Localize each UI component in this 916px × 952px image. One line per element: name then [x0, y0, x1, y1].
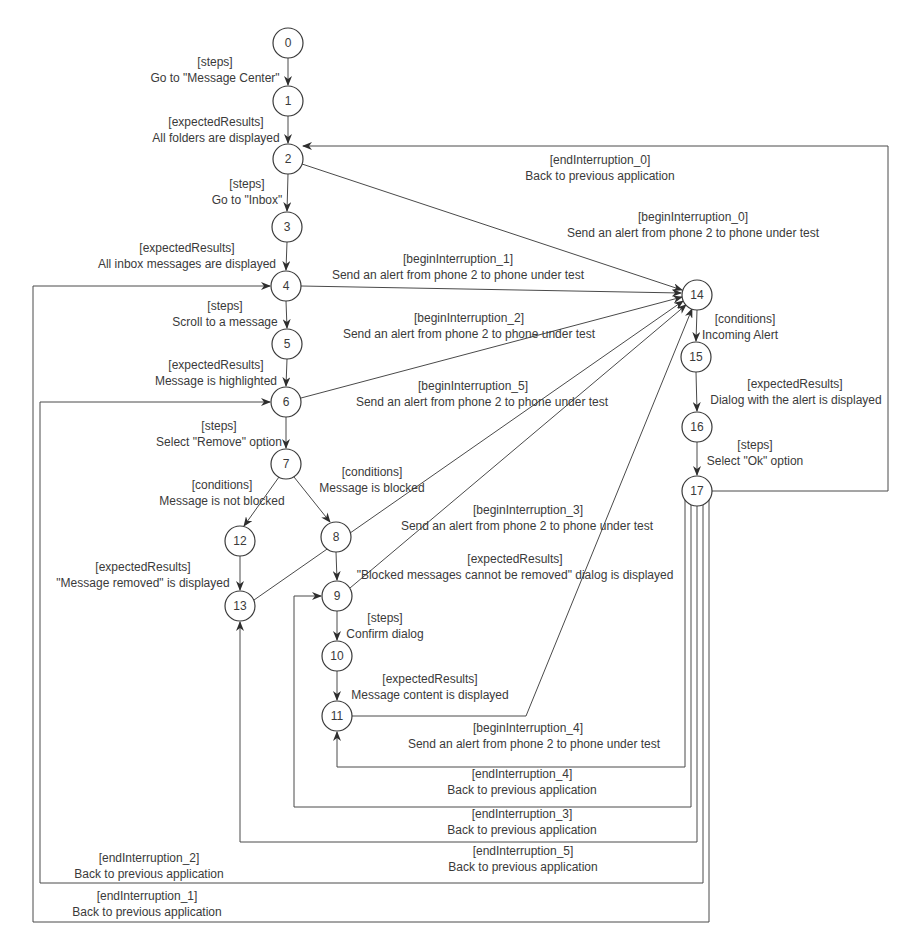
svg-text:Incoming Alert: Incoming Alert — [702, 328, 779, 342]
svg-text:10: 10 — [330, 649, 344, 663]
label-end-interruption-5: [endInterruption_5] Back to previous app… — [448, 844, 597, 874]
svg-text:[endInterruption_2]: [endInterruption_2] — [99, 851, 200, 865]
state-node-11[interactable]: 11 — [322, 701, 352, 731]
svg-text:11: 11 — [331, 709, 344, 723]
state-node-13[interactable]: 13 — [225, 591, 255, 621]
svg-text:Back to previous application: Back to previous application — [525, 169, 674, 183]
label-begin-interruption-1: [beginInterruption_1] Send an alert from… — [332, 252, 585, 282]
svg-text:17: 17 — [690, 484, 704, 498]
edge-4-5 — [286, 301, 287, 328]
state-transition-diagram: 0 1 2 3 4 5 6 7 8 9 10 11 12 13 14 15 16… — [0, 0, 916, 952]
label-edge-12-13: [expectedResults] "Message removed" is d… — [56, 560, 229, 590]
svg-text:Send an alert from phone 2 to: Send an alert from phone 2 to phone unde… — [408, 737, 661, 751]
label-begin-interruption-4: [beginInterruption_4] Send an alert from… — [408, 721, 661, 751]
svg-text:15: 15 — [689, 350, 703, 364]
edge-8-9 — [336, 552, 337, 580]
svg-text:Go to "Message Center": Go to "Message Center" — [150, 71, 279, 85]
svg-text:[beginInterruption_1]: [beginInterruption_1] — [403, 252, 513, 266]
edge-3-4 — [286, 242, 287, 270]
svg-text:[conditions]: [conditions] — [715, 312, 776, 326]
svg-text:16: 16 — [690, 420, 704, 434]
svg-text:All folders are displayed: All folders are displayed — [152, 131, 279, 145]
svg-text:Back to previous application: Back to previous application — [74, 867, 223, 881]
svg-text:[beginInterruption_4]: [beginInterruption_4] — [473, 721, 583, 735]
state-node-4[interactable]: 4 — [271, 271, 301, 301]
svg-text:2: 2 — [285, 152, 292, 166]
label-end-interruption-4: [endInterruption_4] Back to previous app… — [447, 767, 596, 797]
state-node-10[interactable]: 10 — [322, 641, 352, 671]
svg-text:[endInterruption_1]: [endInterruption_1] — [97, 889, 198, 903]
edge-5-6 — [286, 359, 287, 386]
edge-17-4 — [33, 286, 709, 922]
label-end-interruption-2: [endInterruption_2] Back to previous app… — [74, 851, 223, 881]
state-node-8[interactable]: 8 — [321, 522, 351, 552]
svg-text:7: 7 — [283, 457, 290, 471]
svg-text:[beginInterruption_3]: [beginInterruption_3] — [473, 503, 583, 517]
state-node-14[interactable]: 14 — [682, 280, 712, 310]
svg-text:Message is blocked: Message is blocked — [319, 481, 424, 495]
svg-text:Back to previous application: Back to previous application — [72, 905, 221, 919]
svg-text:Message is not blocked: Message is not blocked — [159, 494, 284, 508]
state-node-17[interactable]: 17 — [682, 476, 712, 506]
svg-text:1: 1 — [285, 94, 292, 108]
state-node-16[interactable]: 16 — [682, 412, 712, 442]
svg-text:[steps]: [steps] — [207, 299, 242, 313]
label-begin-interruption-5: [beginInterruption_5] Send an alert from… — [356, 379, 609, 409]
edge-17-9 — [294, 505, 691, 807]
svg-text:5: 5 — [284, 337, 291, 351]
label-edge-7-8: [conditions] Message is blocked — [319, 465, 424, 495]
label-edge-6-7: [steps] Select "Remove" option — [156, 419, 282, 449]
state-node-1[interactable]: 1 — [273, 86, 303, 116]
svg-text:[conditions]: [conditions] — [342, 465, 403, 479]
label-end-interruption-1: [endInterruption_1] Back to previous app… — [72, 889, 221, 919]
svg-text:[expectedResults]: [expectedResults] — [747, 377, 842, 391]
svg-text:Back to previous application: Back to previous application — [448, 860, 597, 874]
state-node-0[interactable]: 0 — [273, 28, 303, 58]
svg-text:[expectedResults]: [expectedResults] — [467, 552, 562, 566]
edge-2-3 — [287, 174, 288, 211]
svg-text:6: 6 — [283, 395, 290, 409]
edge-14-15 — [696, 310, 697, 341]
label-end-interruption-0: [endInterruption_0] Back to previous app… — [525, 153, 674, 183]
svg-text:[expectedResults]: [expectedResults] — [168, 358, 263, 372]
svg-text:[steps]: [steps] — [367, 611, 402, 625]
state-node-12[interactable]: 12 — [225, 526, 255, 556]
edge-4-14 — [301, 286, 681, 293]
svg-text:Select "Ok" option: Select "Ok" option — [707, 454, 804, 468]
label-begin-interruption-2: [beginInterruption_2] Send an alert from… — [343, 311, 596, 341]
svg-text:[expectedResults]: [expectedResults] — [95, 560, 190, 574]
label-edge-3-4: [expectedResults] All inbox messages are… — [98, 241, 276, 271]
svg-text:Message content is displayed: Message content is displayed — [351, 688, 508, 702]
state-node-3[interactable]: 3 — [272, 212, 302, 242]
svg-text:[conditions]: [conditions] — [192, 478, 253, 492]
edge-labels: [steps] Go to "Message Center" [expected… — [56, 55, 881, 919]
svg-text:Message is highlighted: Message is highlighted — [155, 374, 277, 388]
state-node-7[interactable]: 7 — [271, 449, 301, 479]
svg-text:4: 4 — [283, 279, 290, 293]
state-node-6[interactable]: 6 — [271, 387, 301, 417]
svg-text:Go to "Inbox": Go to "Inbox" — [212, 193, 283, 207]
state-node-5[interactable]: 5 — [272, 329, 302, 359]
svg-text:12: 12 — [233, 534, 247, 548]
svg-text:Send an alert from phone 2 to: Send an alert from phone 2 to phone unde… — [567, 226, 820, 240]
state-node-2[interactable]: 2 — [273, 144, 303, 174]
svg-text:14: 14 — [690, 288, 704, 302]
label-edge-5-6: [expectedResults] Message is highlighted — [155, 358, 277, 388]
svg-text:8: 8 — [333, 530, 340, 544]
svg-text:[steps]: [steps] — [229, 177, 264, 191]
state-node-9[interactable]: 9 — [322, 581, 352, 611]
label-edge-4-5: [steps] Scroll to a message — [172, 299, 278, 329]
svg-text:Send an alert from phone 2 to: Send an alert from phone 2 to phone unde… — [356, 395, 609, 409]
svg-text:[beginInterruption_5]: [beginInterruption_5] — [418, 379, 528, 393]
svg-text:[expectedResults]: [expectedResults] — [168, 115, 263, 129]
svg-text:Send an alert from phone 2 to: Send an alert from phone 2 to phone unde… — [332, 268, 585, 282]
svg-text:13: 13 — [233, 599, 247, 613]
svg-text:9: 9 — [334, 589, 341, 603]
svg-text:All inbox messages are display: All inbox messages are displayed — [98, 257, 276, 271]
label-edge-9-10: [steps] Confirm dialog — [346, 611, 423, 641]
svg-text:Dialog with the alert is displ: Dialog with the alert is displayed — [710, 393, 881, 407]
svg-text:"Message removed" is displayed: "Message removed" is displayed — [56, 576, 229, 590]
state-node-15[interactable]: 15 — [681, 342, 711, 372]
edge-17-2 — [303, 146, 888, 491]
label-edge-0-1: [steps] Go to "Message Center" — [150, 55, 279, 85]
